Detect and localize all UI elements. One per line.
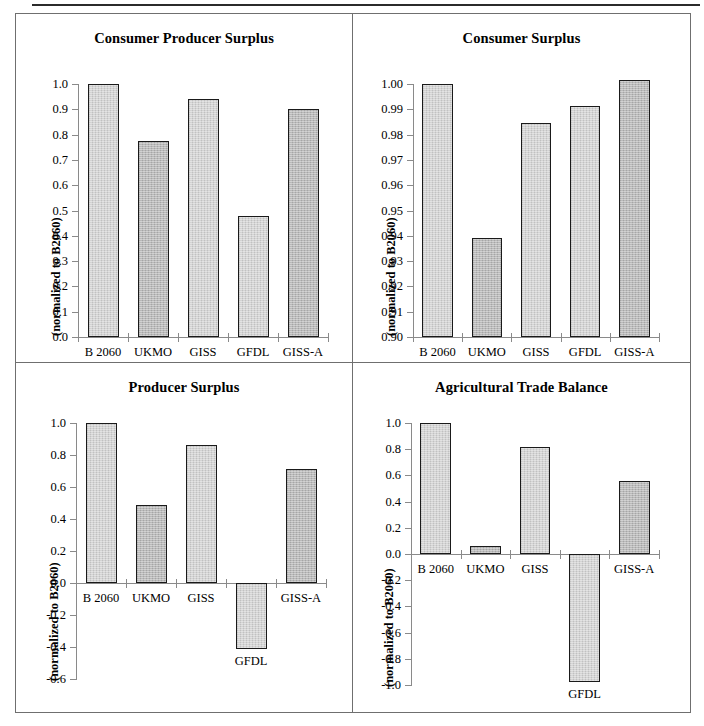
x-axis-tick — [326, 579, 327, 588]
y-axis-tick-label: 0.8 — [26, 449, 66, 462]
panel-title: Consumer Surplus — [353, 30, 690, 47]
x-axis-category-label: UKMO — [461, 563, 511, 576]
bar-gfdl — [236, 583, 267, 649]
figure-top-rule — [32, 4, 700, 6]
y-axis-tick — [405, 423, 412, 424]
y-axis-tick — [72, 109, 79, 110]
figure-page: Consumer Producer Surplus (normalized to… — [0, 0, 704, 726]
x-axis-tick — [411, 550, 412, 559]
y-axis-tick-label: 0.4 — [361, 496, 401, 509]
x-axis-baseline — [78, 337, 328, 338]
y-axis-tick-label: 0.4 — [26, 513, 66, 526]
y-axis-tick — [70, 487, 77, 488]
bar-ukmo — [472, 238, 503, 337]
plot-area: (normalized to B2060)1.00.90.80.70.60.50… — [78, 84, 328, 337]
y-axis-tick-label: 0.1 — [28, 306, 68, 319]
y-axis-tick — [407, 135, 414, 136]
y-axis-tick-label: 1.00 — [363, 78, 403, 91]
x-axis-tick — [76, 579, 77, 588]
x-axis-tick — [176, 579, 177, 588]
y-axis-tick-label: -1.0 — [361, 679, 401, 692]
y-axis-tick — [407, 84, 414, 85]
bar-b-2060 — [86, 423, 117, 583]
panel-consumer-surplus: Consumer Surplus (normalized to B2060)1.… — [353, 14, 690, 363]
x-axis-category-label: UKMO — [462, 346, 511, 359]
y-axis-tick-label: 0.91 — [363, 306, 403, 319]
y-axis-tick — [70, 455, 77, 456]
y-axis-tick — [72, 185, 79, 186]
y-axis-tick-label: 0.98 — [363, 129, 403, 142]
plot-area: (normalized to B2060)1.000.990.980.970.9… — [413, 84, 659, 337]
y-axis-tick — [70, 519, 77, 520]
y-axis-tick-label: 0.92 — [363, 280, 403, 293]
bar-giss-a — [619, 481, 650, 554]
y-axis-tick — [405, 659, 412, 660]
x-axis-tick — [278, 333, 279, 342]
bar-gfdl — [570, 106, 601, 337]
y-axis-tick — [72, 135, 79, 136]
bar-b-2060 — [422, 84, 453, 337]
y-axis-tick-label: 0.9 — [28, 103, 68, 116]
y-axis-tick-label: 0.0 — [28, 331, 68, 344]
y-axis-tick — [70, 423, 77, 424]
y-axis-tick — [407, 160, 414, 161]
x-axis-baseline — [76, 583, 326, 584]
y-axis-tick — [405, 528, 412, 529]
x-axis-tick — [510, 550, 511, 559]
x-axis-baseline — [413, 337, 659, 338]
x-axis-category-label: B 2060 — [413, 346, 462, 359]
y-axis-tick — [407, 286, 414, 287]
y-axis-tick — [405, 606, 412, 607]
y-axis-tick — [407, 109, 414, 110]
plot-area: (normalized to B2060)1.00.80.60.40.20.0-… — [76, 423, 326, 679]
bar-gfdl — [569, 554, 600, 682]
y-axis-tick — [405, 502, 412, 503]
x-axis-category-label: B 2060 — [411, 563, 461, 576]
y-axis-tick — [407, 211, 414, 212]
x-axis-tick — [276, 579, 277, 588]
x-axis-category-label: GISS-A — [276, 592, 326, 605]
x-axis-tick — [78, 333, 79, 342]
x-axis-category-label: GFDL — [226, 655, 276, 668]
x-axis-category-label: GISS-A — [609, 563, 659, 576]
x-axis-tick — [610, 333, 611, 342]
y-axis-tick-label: 0.7 — [28, 154, 68, 167]
panel-grid: Consumer Producer Surplus (normalized to… — [15, 13, 691, 713]
x-axis-tick — [659, 333, 660, 342]
y-axis-tick — [405, 475, 412, 476]
y-axis-tick — [72, 84, 79, 85]
y-axis-tick-label: 0.95 — [363, 205, 403, 218]
x-axis-tick — [328, 333, 329, 342]
panel-agricultural-trade-balance: Agricultural Trade Balance (normalized t… — [353, 363, 690, 712]
y-axis-tick — [405, 580, 412, 581]
y-axis-tick-label: 0.0 — [361, 548, 401, 561]
y-axis-tick-label: 0.99 — [363, 103, 403, 116]
y-axis-tick-label: 0.8 — [28, 129, 68, 142]
x-axis-tick — [462, 333, 463, 342]
bar-ukmo — [138, 141, 169, 337]
bar-giss-a — [619, 80, 650, 337]
y-axis-tick-label: 0.6 — [361, 469, 401, 482]
y-axis-tick — [405, 449, 412, 450]
y-axis-tick-label: -0.6 — [361, 627, 401, 640]
y-axis-tick — [72, 312, 79, 313]
x-axis-tick — [609, 550, 610, 559]
y-axis-tick — [72, 286, 79, 287]
y-axis-tick-label: 0.8 — [361, 443, 401, 456]
y-axis-tick-label: 0.2 — [361, 522, 401, 535]
bar-giss — [186, 445, 217, 583]
bar-giss — [188, 99, 219, 337]
y-axis-tick-label: -0.8 — [361, 653, 401, 666]
y-axis-tick — [70, 615, 77, 616]
y-axis-tick-label: 0.0 — [26, 577, 66, 590]
bar-giss-a — [288, 109, 319, 337]
panel-title: Producer Surplus — [16, 379, 352, 396]
y-axis-tick-label: 0.5 — [28, 205, 68, 218]
y-axis-tick — [72, 211, 79, 212]
x-axis-tick — [128, 333, 129, 342]
x-axis-tick — [226, 579, 227, 588]
y-axis-tick — [405, 633, 412, 634]
y-axis-tick-label: -0.6 — [26, 673, 66, 686]
y-axis-tick-label: -0.4 — [26, 641, 66, 654]
y-axis-tick-label: 0.3 — [28, 255, 68, 268]
